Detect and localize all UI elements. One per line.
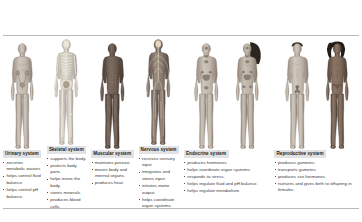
figure-group-urinary	[3, 37, 42, 149]
fact-item: produces heat.	[91, 180, 133, 187]
fact-item: maintains posture.	[91, 160, 133, 167]
system-heading-endocrine: Endocrine system	[184, 150, 229, 158]
system-column-reproductive: Reproductive system produces gametes. tr…	[271, 37, 362, 207]
fact-item: integrates and stores input.	[139, 169, 179, 182]
female-urinary-anterior-icon	[3, 41, 42, 149]
fact-item: excretes metabolic wastes.	[3, 160, 42, 173]
figure-group-nervous	[139, 37, 179, 145]
fact-item: produces hormones.	[184, 160, 270, 167]
male-skeleton-anterior-icon	[47, 37, 86, 145]
fact-item: protects body parts.	[47, 163, 86, 176]
system-heading-reproductive: Reproductive system	[274, 150, 326, 158]
system-column-urinary: Urinary system excretes metabolic wastes…	[0, 37, 44, 207]
fact-item: helps coordinate organ systems.	[184, 167, 270, 174]
fact-item: helps control fluid balance.	[3, 173, 42, 186]
system-column-nervous: Nervous system receives sensory input. i…	[136, 37, 181, 207]
fact-item: moves body and internal organs.	[91, 167, 133, 180]
fact-item: helps move the body.	[47, 176, 86, 189]
systems-column-container: Urinary system excretes metabolic wastes…	[0, 37, 362, 207]
fact-list-urinary: excretes metabolic wastes. helps control…	[3, 160, 42, 201]
fact-item: initiates motor output.	[139, 183, 179, 196]
fact-item: produces gametes.	[274, 160, 360, 167]
fact-item: supports the body.	[47, 156, 86, 163]
male-endocrine-anterior-icon	[187, 41, 226, 149]
male-nervous-anterior-icon	[139, 37, 178, 145]
fact-item: transports gametes.	[274, 167, 360, 174]
figure-group-skeletal	[47, 37, 86, 145]
fact-item: helps control pH balance.	[3, 187, 42, 200]
female-reproductive-anterior-icon	[318, 41, 357, 149]
male-musculature-anterior-icon	[93, 41, 132, 149]
female-endocrine-anterior-icon	[228, 41, 267, 149]
figure-group-muscular	[91, 37, 133, 149]
system-column-endocrine: Endocrine system produces hormones. help…	[181, 37, 272, 207]
fact-item: nurtures and gives birth to offspring in…	[274, 181, 360, 194]
fact-item: receives sensory input.	[139, 156, 179, 169]
fact-item: produces sex hormones.	[274, 174, 360, 181]
fact-item: responds to stress.	[184, 174, 270, 181]
fact-item: stores minerals.	[47, 190, 86, 197]
fact-list-endocrine: produces hormones. helps coordinate orga…	[184, 160, 270, 195]
system-heading-skeletal: Skeletal system	[47, 146, 86, 154]
fact-item: helps regulate metabolism.	[184, 188, 270, 195]
figure-group-endocrine	[184, 37, 270, 149]
fact-list-nervous: receives sensory input. integrates and s…	[139, 156, 179, 211]
system-heading-nervous: Nervous system	[139, 146, 179, 154]
anatomy-systems-plate: Urinary system excretes metabolic wastes…	[0, 0, 362, 222]
top-divider-rule	[3, 35, 359, 36]
system-heading-urinary: Urinary system	[3, 150, 41, 158]
figure-group-reproductive	[274, 37, 360, 149]
system-column-skeletal: Skeletal system supports the body. prote…	[44, 37, 88, 207]
fact-item: helps regulate fluid and pH balance.	[184, 181, 270, 188]
male-reproductive-anterior-icon	[278, 41, 317, 149]
fact-item: produces blood cells.	[47, 197, 86, 210]
system-column-muscular: Muscular system maintains posture. moves…	[88, 37, 135, 207]
fact-list-muscular: maintains posture. moves body and intern…	[91, 160, 133, 188]
fact-list-skeletal: supports the body. protects body parts. …	[47, 156, 86, 211]
fact-item: helps coordinate organ systems.	[139, 197, 179, 210]
system-heading-muscular: Muscular system	[91, 150, 133, 158]
fact-list-reproductive: produces gametes. transports gametes. pr…	[274, 160, 360, 195]
